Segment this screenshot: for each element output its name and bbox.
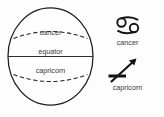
diagram-canvas: cancer equator capricorn cancer	[0, 0, 164, 117]
cancer-icon-circle-left	[117, 18, 125, 26]
capricorn-icon-shaft	[112, 61, 135, 82]
globe-label-cancer: cancer	[40, 28, 62, 37]
globe-group: cancer equator capricorn	[8, 8, 93, 105]
sphere-zones-diagram: cancer equator capricorn cancer	[0, 0, 164, 117]
tropic-of-capricorn-arc	[14, 75, 88, 82]
globe-label-capricorn: capricorn	[36, 66, 66, 75]
cancer-legend-label: cancer	[117, 38, 139, 47]
cancer-icon	[117, 17, 138, 33]
zodiac-legend-group: cancer capricorn	[109, 17, 143, 92]
capricorn-icon	[109, 59, 137, 82]
capricorn-legend-label: capricorn	[113, 83, 143, 92]
cancer-icon-circle-right	[130, 24, 138, 32]
globe-label-equator: equator	[38, 47, 63, 56]
